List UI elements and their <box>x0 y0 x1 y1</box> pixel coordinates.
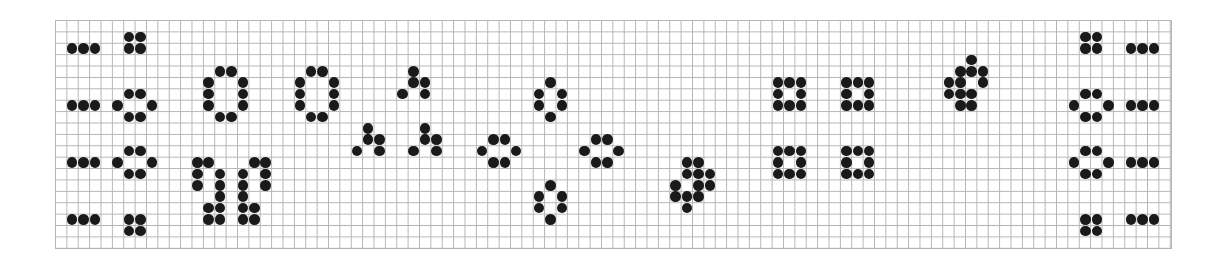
live-cell[interactable] <box>78 100 89 111</box>
live-cell[interactable] <box>78 214 89 225</box>
live-cell[interactable] <box>693 168 704 179</box>
live-cell[interactable] <box>214 180 225 191</box>
live-cell[interactable] <box>1091 31 1102 42</box>
live-cell[interactable] <box>556 88 567 99</box>
live-cell[interactable] <box>556 100 567 111</box>
live-cell[interactable] <box>852 77 863 88</box>
live-cell[interactable] <box>1069 157 1080 168</box>
live-cell[interactable] <box>123 31 134 42</box>
live-cell[interactable] <box>704 168 715 179</box>
live-cell[interactable] <box>317 111 328 122</box>
live-cell[interactable] <box>203 214 214 225</box>
live-cell[interactable] <box>112 100 123 111</box>
live-cell[interactable] <box>362 123 373 134</box>
live-cell[interactable] <box>419 134 430 145</box>
live-cell[interactable] <box>795 88 806 99</box>
live-cell[interactable] <box>123 88 134 99</box>
live-cell[interactable] <box>772 145 783 156</box>
live-cell[interactable] <box>237 168 248 179</box>
live-cell[interactable] <box>89 100 100 111</box>
live-cell[interactable] <box>1080 31 1091 42</box>
live-cell[interactable] <box>772 168 783 179</box>
live-cell[interactable] <box>556 202 567 213</box>
live-cell[interactable] <box>237 88 248 99</box>
live-cell[interactable] <box>1080 111 1091 122</box>
live-cell[interactable] <box>214 214 225 225</box>
live-cell[interactable] <box>66 100 77 111</box>
live-cell[interactable] <box>1091 168 1102 179</box>
live-cell[interactable] <box>237 180 248 191</box>
live-cell[interactable] <box>78 157 89 168</box>
live-cell[interactable] <box>1080 43 1091 54</box>
live-cell[interactable] <box>533 202 544 213</box>
live-cell[interactable] <box>1148 43 1159 54</box>
live-cell[interactable] <box>784 145 795 156</box>
live-cell[interactable] <box>488 157 499 168</box>
live-cell[interactable] <box>841 145 852 156</box>
live-cell[interactable] <box>841 88 852 99</box>
live-cell[interactable] <box>123 111 134 122</box>
live-cell[interactable] <box>545 214 556 225</box>
live-cell[interactable] <box>214 111 225 122</box>
live-cell[interactable] <box>203 202 214 213</box>
live-cell[interactable] <box>249 202 260 213</box>
live-cell[interactable] <box>135 88 146 99</box>
live-cell[interactable] <box>397 88 408 99</box>
live-cell[interactable] <box>146 100 157 111</box>
live-cell[interactable] <box>1091 111 1102 122</box>
live-cell[interactable] <box>66 43 77 54</box>
live-cell[interactable] <box>955 66 966 77</box>
live-cell[interactable] <box>681 202 692 213</box>
live-cell[interactable] <box>533 88 544 99</box>
live-cell[interactable] <box>192 157 203 168</box>
live-cell[interactable] <box>260 180 271 191</box>
live-cell[interactable] <box>476 145 487 156</box>
live-cell[interactable] <box>374 145 385 156</box>
live-cell[interactable] <box>1148 157 1159 168</box>
live-cell[interactable] <box>784 100 795 111</box>
live-cell[interactable] <box>294 88 305 99</box>
live-cell[interactable] <box>955 77 966 88</box>
live-cell[interactable] <box>1125 157 1136 168</box>
live-cell[interactable] <box>237 191 248 202</box>
live-cell[interactable] <box>977 66 988 77</box>
live-cell[interactable] <box>408 145 419 156</box>
live-cell[interactable] <box>977 77 988 88</box>
live-cell[interactable] <box>499 157 510 168</box>
live-cell[interactable] <box>693 180 704 191</box>
live-cell[interactable] <box>533 191 544 202</box>
live-cell[interactable] <box>431 134 442 145</box>
live-cell[interactable] <box>966 54 977 65</box>
live-cell[interactable] <box>1091 43 1102 54</box>
live-cell[interactable] <box>613 145 624 156</box>
live-cell[interactable] <box>1080 88 1091 99</box>
live-cell[interactable] <box>1080 168 1091 179</box>
live-cell[interactable] <box>214 168 225 179</box>
live-cell[interactable] <box>237 202 248 213</box>
live-cell[interactable] <box>864 157 875 168</box>
live-cell[interactable] <box>602 157 613 168</box>
live-cell[interactable] <box>966 66 977 77</box>
live-cell[interactable] <box>419 88 430 99</box>
live-cell[interactable] <box>1080 214 1091 225</box>
live-cell[interactable] <box>135 168 146 179</box>
live-cell[interactable] <box>214 202 225 213</box>
live-cell[interactable] <box>306 66 317 77</box>
live-cell[interactable] <box>590 134 601 145</box>
live-cell[interactable] <box>362 134 373 145</box>
live-cell[interactable] <box>214 191 225 202</box>
live-cell[interactable] <box>1125 43 1136 54</box>
live-cell[interactable] <box>1091 225 1102 236</box>
live-cell[interactable] <box>852 168 863 179</box>
live-cell[interactable] <box>135 145 146 156</box>
live-cell[interactable] <box>955 88 966 99</box>
live-cell[interactable] <box>1137 100 1148 111</box>
live-cell[interactable] <box>772 157 783 168</box>
live-cell[interactable] <box>1091 145 1102 156</box>
live-cell[interactable] <box>1148 214 1159 225</box>
live-cell[interactable] <box>260 168 271 179</box>
live-cell[interactable] <box>317 66 328 77</box>
live-cell[interactable] <box>146 157 157 168</box>
live-cell[interactable] <box>943 77 954 88</box>
live-cell[interactable] <box>1125 100 1136 111</box>
